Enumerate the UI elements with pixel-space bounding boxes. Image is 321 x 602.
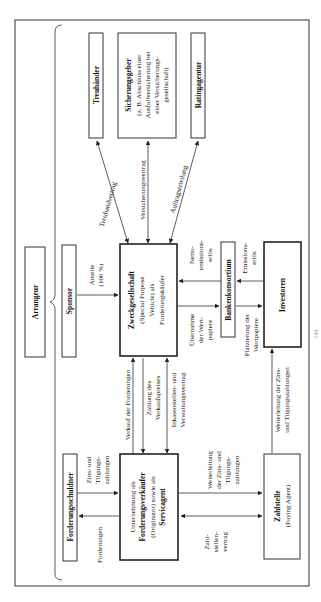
uebernahme-label: Übernahme	[188, 314, 196, 347]
zahlung-label: Verkaufspreises	[154, 376, 162, 421]
investoren-box: Investoren	[264, 242, 301, 347]
originator-box: Unternehmung als Forderungsverkäufer (Or…	[120, 454, 178, 560]
zins-tilgung-label: Tilgungs-	[94, 456, 102, 484]
emission-label: Emissions-	[241, 242, 249, 274]
inkasso-label: Inkassostellen- und	[170, 372, 178, 427]
anteile-label: Anteile	[88, 265, 96, 286]
platzierung-label: Platzierung der	[243, 313, 251, 356]
weiterleitung-investoren-label: Weiterleitung der Zins-	[274, 367, 282, 433]
sicherungsgeber-line: gesellschaft)	[162, 67, 170, 103]
platzierung-label: Wertpapiere	[252, 318, 260, 352]
sponsor-label: Sponsor	[65, 287, 74, 314]
zweckgesellschaft-line: Vehicle) als	[148, 283, 156, 316]
anteile-label: (100 %)	[97, 263, 105, 286]
netto-label: Netto-	[188, 245, 196, 264]
weiterleitung-zahlstelle-label: zahlungen	[233, 455, 241, 484]
originator-line: (Originator) sowie als	[149, 476, 157, 538]
weiterleitung-zahlstelle-label: Weiterleitung	[206, 451, 214, 489]
forderungsschuldner-box: Forderungsschuldner	[63, 454, 77, 561]
ratingagentur-box: Ratingagentur	[191, 33, 205, 138]
forderungsschuldner-label: Forderungsschuldner	[66, 472, 75, 542]
abs-structure-diagram: Arrangeur Treuhänder Sicherungsgeber (z.…	[0, 0, 321, 602]
netto-label: erlös	[206, 248, 214, 262]
sponsor-box: Sponsor	[62, 245, 76, 357]
treuhaender-label: Treuhänder	[92, 65, 101, 104]
page-number: 144	[313, 330, 319, 339]
ratingagentur-label: Ratingagentur	[194, 61, 203, 108]
zahlstelle-sub: (Paying Agent)	[284, 484, 292, 527]
sicherungsgeber-line: Ausfallversicherung bei	[144, 51, 152, 118]
arrangeur-box: Arrangeur	[25, 247, 45, 357]
originator-role: Servicagent	[158, 488, 167, 526]
inkasso-label: Verwaltungsvertrag	[179, 372, 187, 427]
zins-tilgung-label: Zins- und	[85, 456, 93, 484]
uebernahme-label: der Wert-	[197, 316, 205, 343]
bankenkonsortium-label: Bankenkonsortium	[224, 258, 233, 320]
zahlstellenvertrag-label: Zahl-	[203, 534, 211, 550]
zahlstellenvertrag-label: stellen-	[212, 531, 220, 552]
weiterleitung-investoren-label: und Tilgungszahlungen	[283, 367, 291, 433]
weiterleitung-zahlstelle-label: der Zins- und	[215, 451, 223, 489]
zins-tilgung-label: zahlungen	[103, 455, 111, 484]
uebernahme-label: papiere	[206, 320, 214, 341]
sicherungsgeber-line: einer Versicherungs-	[153, 56, 161, 114]
verkauf-label: Verkauf der Forderungen	[124, 369, 132, 440]
arrangeur-label: Arrangeur	[31, 284, 40, 319]
sicherungsgeber-line: (z. B. Abschluss einer	[135, 54, 143, 116]
emission-label: erlös	[250, 251, 258, 265]
zweckgesellschaft-line: Forderungskäufer	[158, 274, 166, 324]
netto-label: emissions-	[197, 239, 205, 270]
zweckgesellschaft-box: Zweckgesellschaft (Special Purpose Vehic…	[120, 244, 177, 356]
forderungen-label: Forderungen	[96, 527, 104, 563]
weiterleitung-zahlstelle-label: Tilgungs-	[224, 456, 232, 484]
originator-line: Unternehmung als	[129, 481, 137, 533]
investoren-label: Investoren	[278, 277, 287, 312]
zahlstellenvertrag-label: vertrag	[221, 532, 229, 552]
sicherungsgeber-label: Sicherungsgeber	[124, 58, 133, 112]
bankenkonsortium-box: Bankenkonsortium	[221, 242, 235, 337]
originator-role: Forderungsverkäufer	[138, 472, 147, 542]
sicherungsgeber-box: Sicherungsgeber (z. B. Abschluss einer A…	[118, 33, 176, 138]
versicherungsvertrag-label: Versicherungsvertrag	[139, 160, 147, 220]
zweckgesellschaft-line: (Special Purpose	[138, 276, 146, 323]
zahlstelle-label: Zahlstelle	[273, 490, 282, 522]
zahlstelle-box: Zahlstelle (Paying Agent)	[264, 454, 300, 559]
zweckgesellschaft-label: Zweckgesellschaft	[127, 271, 136, 329]
zahlung-label: Zahlung des	[145, 381, 153, 416]
treuhaender-box: Treuhänder	[89, 33, 103, 138]
